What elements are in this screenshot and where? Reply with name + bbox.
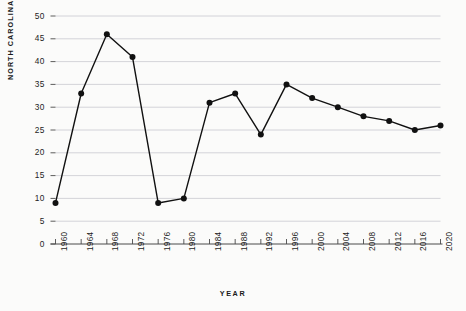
data-point bbox=[284, 81, 290, 87]
data-point bbox=[53, 200, 59, 206]
y-tick-label: 50 bbox=[23, 11, 45, 21]
data-point bbox=[155, 200, 161, 206]
x-tick-label: 1980 bbox=[187, 232, 197, 251]
line-chart: NORTH CAROLINA RANK YEAR 051015202530354… bbox=[0, 0, 466, 311]
y-tick-label: 5 bbox=[23, 216, 45, 226]
plot-area bbox=[0, 0, 466, 311]
x-tick-label: 1964 bbox=[85, 232, 95, 251]
y-tick-label: 20 bbox=[23, 147, 45, 157]
data-point bbox=[412, 127, 418, 133]
y-tick-label: 40 bbox=[23, 56, 45, 66]
y-tick-label: 25 bbox=[23, 125, 45, 135]
data-point bbox=[309, 95, 315, 101]
data-point bbox=[386, 118, 392, 124]
y-tick-label: 30 bbox=[23, 102, 45, 112]
x-tick-label: 2004 bbox=[341, 232, 351, 251]
y-tick-label: 10 bbox=[23, 193, 45, 203]
data-point bbox=[104, 31, 110, 37]
x-tick-label: 1996 bbox=[290, 232, 300, 251]
x-tick-label: 2008 bbox=[367, 232, 377, 251]
data-point bbox=[207, 100, 213, 106]
x-tick-label: 1976 bbox=[162, 232, 172, 251]
x-tick-label: 2016 bbox=[418, 232, 428, 251]
data-point bbox=[181, 195, 187, 201]
y-tick-label: 45 bbox=[23, 33, 45, 43]
data-point bbox=[335, 104, 341, 110]
x-tick-label: 1988 bbox=[239, 232, 249, 251]
x-tick-label: 1992 bbox=[264, 232, 274, 251]
x-tick-label: 1972 bbox=[136, 232, 146, 251]
x-tick-label: 2020 bbox=[444, 232, 454, 251]
data-point bbox=[361, 113, 367, 119]
data-point bbox=[438, 122, 444, 128]
y-tick-label: 15 bbox=[23, 170, 45, 180]
data-point bbox=[232, 91, 238, 97]
y-tick-label: 0 bbox=[23, 239, 45, 249]
data-point bbox=[78, 91, 84, 97]
data-point bbox=[130, 54, 136, 60]
data-line bbox=[56, 34, 441, 203]
x-tick-label: 1968 bbox=[110, 232, 120, 251]
y-tick-label: 35 bbox=[23, 79, 45, 89]
x-tick-label: 2000 bbox=[316, 232, 326, 251]
x-tick-label: 1984 bbox=[213, 232, 223, 251]
x-tick-label: 1960 bbox=[59, 232, 69, 251]
data-point bbox=[258, 132, 264, 138]
x-tick-label: 2012 bbox=[393, 232, 403, 251]
